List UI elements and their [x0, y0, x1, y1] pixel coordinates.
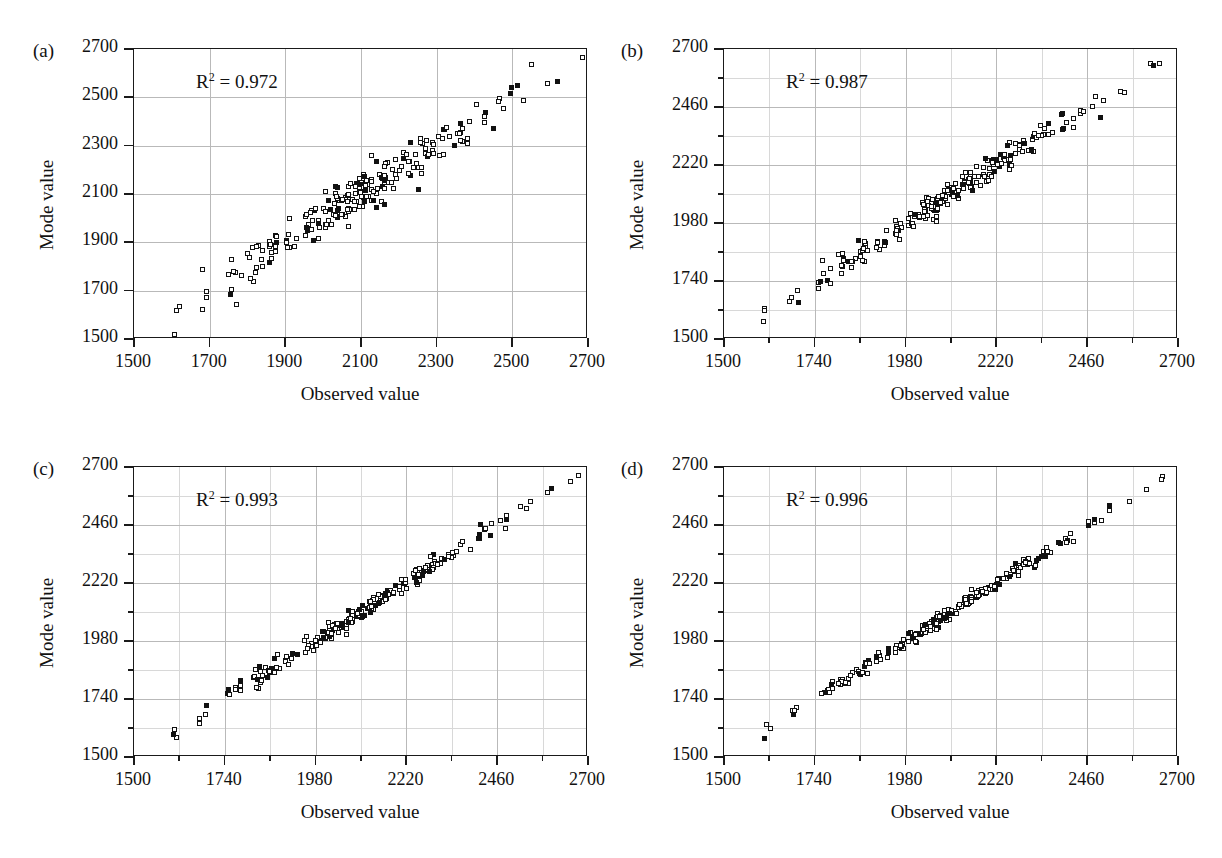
scatter-point [886, 650, 891, 655]
scatter-point [284, 240, 289, 245]
y-axis-tick [714, 756, 723, 758]
scatter-point [939, 616, 944, 621]
scatter-point [306, 222, 311, 227]
scatter-point [308, 210, 313, 215]
scatter-point [874, 659, 879, 664]
scatter-point [489, 521, 494, 526]
scatter-point [922, 207, 927, 212]
scatter-point [917, 215, 922, 220]
x-axis-tick-minor [768, 756, 770, 761]
scatter-point [454, 549, 459, 554]
scatter-point [248, 276, 253, 281]
scatter-point [974, 595, 979, 600]
scatter-point [335, 208, 340, 213]
scatter-point [983, 591, 988, 596]
scatter-point [401, 156, 406, 161]
scatter-point [316, 638, 321, 643]
scatter-point [491, 126, 496, 131]
scatter-point [1090, 104, 1095, 109]
scatter-point [309, 644, 314, 649]
scatter-point [359, 615, 364, 620]
scatter-point [290, 651, 295, 656]
scatter-point [923, 208, 928, 213]
scatter-point [850, 670, 855, 675]
scatter-point [949, 608, 954, 613]
scatter-point [394, 176, 399, 181]
scatter-point [267, 239, 272, 244]
scatter-point [331, 624, 336, 629]
scatter-point [816, 280, 821, 285]
scatter-point [477, 536, 482, 541]
scatter-point [962, 179, 967, 184]
scatter-point [981, 172, 986, 177]
gridline-horizontal-minor [134, 612, 586, 613]
scatter-point [936, 194, 941, 199]
scatter-point [1007, 162, 1012, 167]
scatter-point [416, 572, 421, 577]
scatter-point [229, 257, 234, 262]
scatter-point [1008, 157, 1013, 162]
scatter-point [946, 187, 951, 192]
x-axis-tick [587, 756, 589, 765]
scatter-point [862, 239, 867, 244]
scatter-point [295, 652, 300, 657]
scatter-point [345, 207, 350, 212]
scatter-point [273, 233, 278, 238]
scatter-point [304, 634, 309, 639]
scatter-point [272, 670, 277, 675]
scatter-point [274, 234, 279, 239]
scatter-point [894, 224, 899, 229]
scatter-point [946, 607, 951, 612]
y-axis-title: Mode value [626, 160, 648, 250]
scatter-point [1003, 576, 1008, 581]
scatter-point [431, 552, 436, 557]
scatter-point [316, 221, 321, 226]
scatter-point [931, 204, 936, 209]
y-axis-tick [714, 338, 723, 340]
scatter-point [1041, 549, 1046, 554]
scatter-point [368, 599, 373, 604]
y-axis-tick [124, 338, 133, 340]
scatter-point [796, 300, 801, 305]
scatter-point [323, 225, 328, 230]
scatter-point [269, 666, 274, 671]
y-axis-tick [714, 466, 723, 468]
scatter-point [357, 176, 362, 181]
scatter-point [380, 593, 385, 598]
scatter-point [1044, 545, 1049, 550]
scatter-point [305, 228, 310, 233]
scatter-point [956, 605, 961, 610]
scatter-point [899, 225, 904, 230]
y-axis-tick [714, 222, 723, 224]
gridline-vertical [906, 49, 907, 337]
scatter-point [956, 604, 961, 609]
scatter-point [961, 186, 966, 191]
scatter-point [344, 626, 349, 631]
scatter-point [856, 669, 861, 674]
scatter-point [1107, 503, 1112, 508]
scatter-point [367, 605, 372, 610]
scatter-point [967, 600, 972, 605]
scatter-point [964, 601, 969, 606]
scatter-point [976, 593, 981, 598]
scatter-point [458, 121, 463, 126]
scatter-point [1036, 133, 1041, 138]
scatter-point [860, 670, 865, 675]
scatter-point [391, 590, 396, 595]
scatter-point [363, 188, 368, 193]
scatter-point [1046, 121, 1051, 126]
scatter-point [952, 609, 957, 614]
scatter-point [1031, 149, 1036, 154]
scatter-point [936, 625, 941, 630]
scatter-point [821, 271, 826, 276]
scatter-point [441, 152, 446, 157]
x-axis-tick [1177, 756, 1179, 765]
scatter-point [483, 110, 488, 115]
scatter-point [1016, 563, 1021, 568]
scatter-point [334, 621, 339, 626]
scatter-point [325, 633, 330, 638]
scatter-point [378, 594, 383, 599]
scatter-point [333, 191, 338, 196]
x-axis-tick-label: 1740 [774, 351, 854, 372]
scatter-point [820, 258, 825, 263]
